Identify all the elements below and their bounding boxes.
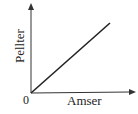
x-axis-label: Amser	[67, 93, 102, 108]
y-axis-label: Pellter	[12, 28, 27, 63]
distance-time-graph: 0 Amser Pellter	[0, 0, 138, 114]
origin-label: 0	[23, 93, 29, 107]
y-axis-arrow-icon	[28, 3, 34, 10]
data-line	[31, 23, 110, 93]
x-axis-arrow-icon	[129, 89, 136, 95]
